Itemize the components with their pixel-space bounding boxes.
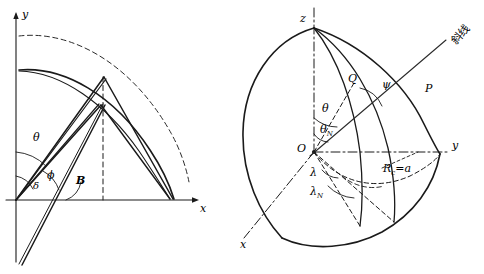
line-delta-extension-companion xyxy=(19,104,103,264)
arc-lambda-N xyxy=(328,186,354,198)
y-axis-arrow xyxy=(13,12,18,19)
right-x-axis-label: x xyxy=(240,238,246,251)
right-z-axis-label: z xyxy=(300,12,306,25)
right-angle-lambda-N-base: λ xyxy=(310,185,317,198)
right-angle-theta-label: θ xyxy=(322,102,329,115)
figure-canvas: y x θ ϕ δ B xyxy=(0,0,484,274)
chord-upper-to-axis xyxy=(104,77,173,199)
x-axis-arrow xyxy=(192,197,199,202)
left-angle-B-label: B xyxy=(76,174,85,187)
right-radius-eq: =a xyxy=(395,162,411,175)
oblique-annotation-line xyxy=(310,40,446,156)
dashed-radius-bottom-front xyxy=(314,152,394,222)
dashed-radius-OQ xyxy=(314,83,354,152)
sphere-outline-left xyxy=(243,28,314,238)
right-angle-lambda-label: λ xyxy=(310,166,317,179)
solid-outer-arc xyxy=(19,70,174,199)
right-angle-theta-N-sub: N xyxy=(327,130,333,138)
left-x-axis-label: x xyxy=(200,202,206,215)
right-radius-label: Rc=a xyxy=(383,162,411,177)
right-angle-theta-N-base: θ xyxy=(320,123,327,136)
left-angle-theta-label: θ xyxy=(33,131,40,144)
left-y-axis-label: y xyxy=(22,8,28,21)
right-panel-graphics xyxy=(242,0,484,274)
right-point-Q-label: Q xyxy=(348,72,357,85)
right-angle-lambda-N-sub: N xyxy=(317,192,323,200)
left-angle-phi-label: ϕ xyxy=(47,169,55,182)
right-angle-theta-N-label: θN xyxy=(320,123,333,138)
right-angle-psi-label: ψ xyxy=(382,78,391,91)
right-origin-label: O xyxy=(297,142,306,155)
arc-lambda xyxy=(322,170,338,178)
dashed-equator-front xyxy=(314,152,440,184)
ray-theta-companion xyxy=(16,79,106,200)
right-y-axis-label: y xyxy=(452,139,458,152)
left-angle-delta-label: δ xyxy=(33,180,39,191)
right-angle-lambda-N-label: λN xyxy=(310,185,323,200)
right-point-P-label: P xyxy=(425,82,432,95)
chord-lower-to-axis xyxy=(101,105,170,199)
